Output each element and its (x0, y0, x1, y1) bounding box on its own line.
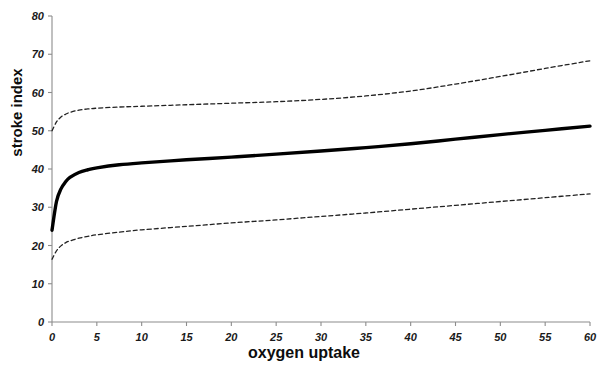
y-tick-label: 0 (16, 316, 44, 328)
x-tick-label: 25 (270, 331, 282, 343)
x-tick-label: 55 (539, 331, 551, 343)
x-tick-label: 30 (315, 331, 327, 343)
x-tick-label: 5 (94, 331, 100, 343)
y-tick-label: 30 (16, 201, 44, 213)
x-tick-label: 45 (449, 331, 461, 343)
x-tick-label: 15 (180, 331, 192, 343)
y-tick-label: 20 (16, 240, 44, 252)
x-tick-label: 20 (225, 331, 237, 343)
y-axis-title: stroke index (8, 48, 25, 178)
data-series (52, 61, 590, 260)
plot-area (0, 0, 608, 372)
x-tick-label: 50 (494, 331, 506, 343)
x-tick-label: 60 (584, 331, 596, 343)
x-tick-label: 10 (136, 331, 148, 343)
axes (48, 16, 590, 326)
y-tick-label: 80 (16, 10, 44, 22)
series-line-1 (52, 126, 590, 230)
x-tick-label: 40 (405, 331, 417, 343)
y-tick-label: 10 (16, 278, 44, 290)
x-axis-title: oxygen uptake (0, 344, 608, 362)
series-line-2 (52, 194, 590, 259)
x-tick-label: 0 (49, 331, 55, 343)
series-line-0 (52, 61, 590, 131)
chart-container: 01020304050607080 0510152025303540455055… (0, 0, 608, 372)
x-tick-label: 35 (360, 331, 372, 343)
